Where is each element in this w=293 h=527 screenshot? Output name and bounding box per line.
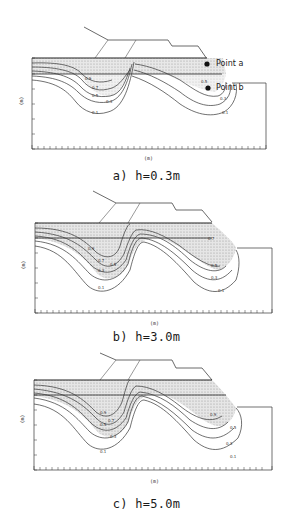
svg-text:0.5: 0.5 bbox=[110, 262, 117, 267]
svg-text:0.3: 0.3 bbox=[226, 441, 233, 446]
point-b-marker bbox=[205, 85, 210, 90]
svg-text:0.1: 0.1 bbox=[230, 454, 237, 459]
svg-text:0.7: 0.7 bbox=[98, 258, 105, 263]
point-a-marker bbox=[204, 61, 209, 66]
svg-text:0.9: 0.9 bbox=[210, 412, 217, 417]
svg-text:0.7: 0.7 bbox=[92, 85, 99, 90]
panel-b: 0.9 0.7 0.3 0.5 0.1 0.7 0.5 0.3 0.1 (m) … bbox=[0, 180, 293, 350]
svg-text:0.3: 0.3 bbox=[110, 434, 117, 439]
x-axis-label-b: (m) bbox=[150, 320, 159, 326]
point-b-label: Point b bbox=[216, 83, 243, 92]
contour-plot-b: 0.9 0.7 0.3 0.5 0.1 0.7 0.5 0.3 0.1 bbox=[0, 180, 293, 350]
x-axis-label-a: (m) bbox=[144, 155, 153, 161]
svg-text:0.1: 0.1 bbox=[218, 288, 225, 293]
svg-text:0.3: 0.3 bbox=[98, 268, 105, 273]
svg-text:0.9: 0.9 bbox=[85, 76, 92, 81]
y-axis-label-c: (m) bbox=[19, 414, 25, 423]
svg-text:0.5: 0.5 bbox=[230, 425, 237, 430]
svg-text:0.9: 0.9 bbox=[100, 410, 107, 415]
svg-text:0.1: 0.1 bbox=[100, 449, 107, 454]
svg-text:0.5: 0.5 bbox=[92, 93, 99, 98]
svg-text:0.3: 0.3 bbox=[220, 96, 227, 101]
svg-text:0.1: 0.1 bbox=[92, 110, 99, 115]
svg-text:0.5: 0.5 bbox=[100, 422, 107, 427]
svg-text:0.7: 0.7 bbox=[108, 418, 115, 423]
panel-c: 0.9 0.7 0.5 0.3 0.1 0.9 0.5 0.3 0.1 (m) … bbox=[0, 340, 293, 527]
caption-c: c) h=5.0m bbox=[0, 497, 293, 511]
point-a-label: Point a bbox=[216, 59, 243, 68]
svg-text:0.1: 0.1 bbox=[98, 285, 105, 290]
contour-plot-a: 0.9 0.7 0.5 0.3 0.1 0.5 0.3 0.1 bbox=[0, 0, 293, 180]
svg-text:0.5: 0.5 bbox=[201, 79, 208, 84]
y-axis-label-b: (m) bbox=[20, 260, 26, 269]
y-axis-label-a: (m) bbox=[18, 96, 24, 105]
svg-text:0.9: 0.9 bbox=[88, 246, 95, 251]
svg-text:0.5: 0.5 bbox=[211, 263, 218, 268]
panel-a: 0.9 0.7 0.5 0.3 0.1 0.5 0.3 0.1 (m) (m) … bbox=[0, 0, 293, 180]
svg-text:0.3: 0.3 bbox=[211, 275, 218, 280]
svg-text:0.7: 0.7 bbox=[208, 236, 215, 241]
svg-text:0.1: 0.1 bbox=[222, 110, 229, 115]
svg-text:0.3: 0.3 bbox=[106, 99, 113, 104]
x-axis-label-c: (m) bbox=[150, 478, 159, 484]
